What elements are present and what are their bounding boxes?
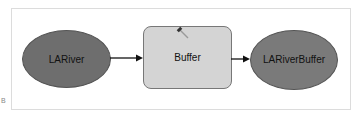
connector-arrow-input-to-tool [110,53,144,63]
output-node-label: LARiverBuffer [263,55,325,65]
input-node-label: LARiver [49,54,85,65]
margin-mark: B [1,97,7,105]
connector-arrow-tool-to-output [231,54,251,64]
tool-node-label: Buffer [174,52,201,63]
output-node-lariverbuffer[interactable]: LARiverBuffer [250,30,338,90]
input-node-lariver[interactable]: LARiver [22,30,111,88]
hammer-icon [176,26,190,40]
